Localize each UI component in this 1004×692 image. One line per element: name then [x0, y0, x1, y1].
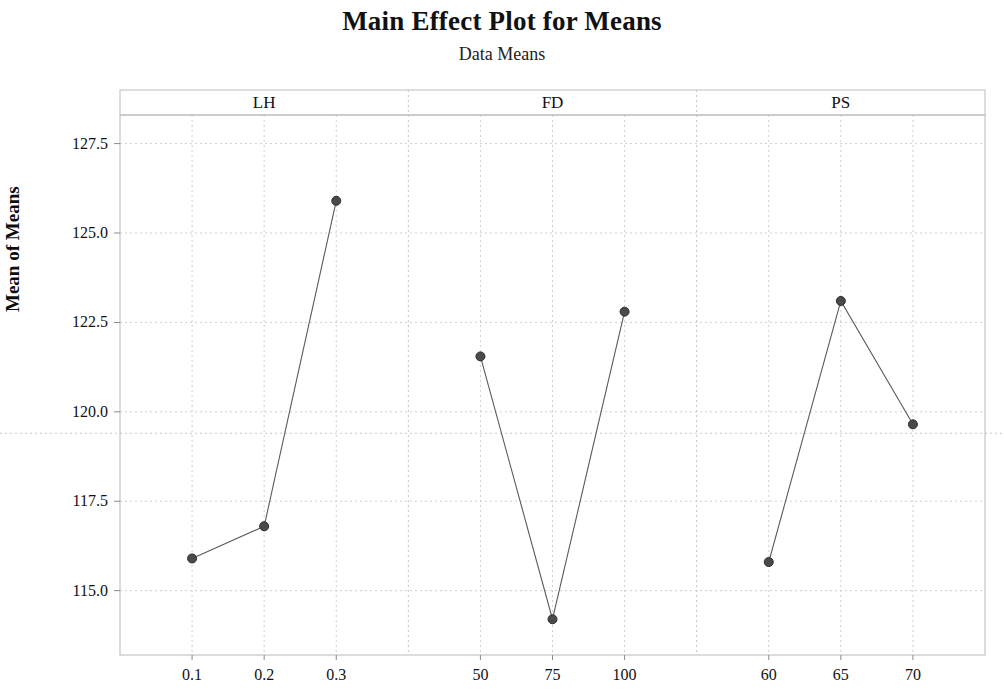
x-tick-label: 60 — [761, 666, 777, 683]
x-tick-label: 75 — [545, 666, 561, 683]
y-tick-label: 125.0 — [72, 224, 108, 241]
y-tick-label: 117.5 — [73, 492, 108, 509]
x-tick-label: 0.3 — [326, 666, 346, 683]
data-point — [764, 558, 773, 567]
x-tick-label: 50 — [472, 666, 488, 683]
x-tick-label: 65 — [833, 666, 849, 683]
plot-area: LHFDPS 115.0117.5120.0122.5125.0127.50.1… — [0, 0, 1004, 692]
y-tick-label: 115.0 — [73, 582, 108, 599]
data-point — [620, 307, 629, 316]
data-point — [836, 296, 845, 305]
series-line-lh — [192, 201, 336, 559]
data-point — [908, 420, 917, 429]
axis-layer: 115.0117.5120.0122.5125.0127.50.10.20.35… — [72, 135, 921, 683]
y-tick-label: 127.5 — [72, 135, 108, 152]
data-point — [548, 615, 557, 624]
grid-layer — [0, 115, 1004, 655]
y-tick-label: 120.0 — [72, 403, 108, 420]
panel-header-fd: FD — [542, 93, 564, 112]
x-tick-label: 0.2 — [254, 666, 274, 683]
y-tick-label: 122.5 — [72, 313, 108, 330]
x-tick-label: 0.1 — [182, 666, 202, 683]
main-effect-plot: Main Effect Plot for Means Data Means Me… — [0, 0, 1004, 692]
data-point — [476, 352, 485, 361]
data-point — [260, 522, 269, 531]
panel-header-lh: LH — [253, 93, 276, 112]
data-point — [188, 554, 197, 563]
x-tick-label: 100 — [613, 666, 637, 683]
x-tick-label: 70 — [905, 666, 921, 683]
data-point — [332, 196, 341, 205]
panel-header-ps: PS — [831, 93, 850, 112]
